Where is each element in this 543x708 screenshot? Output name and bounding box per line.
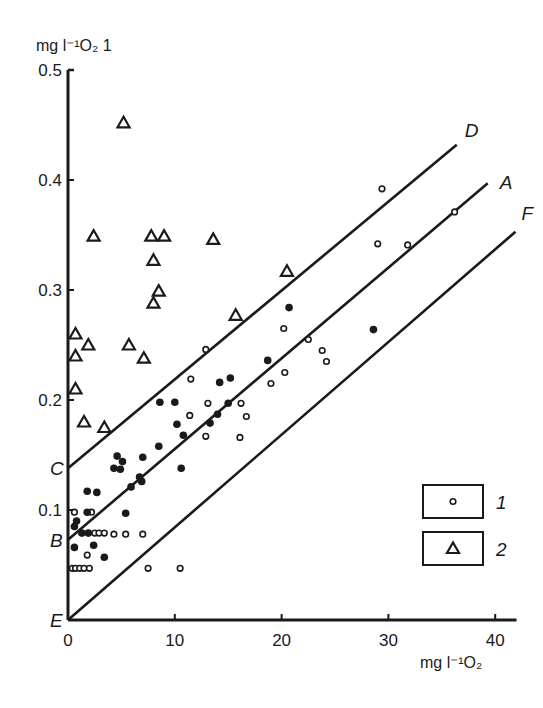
filled-circle-point bbox=[138, 478, 146, 486]
line-label-D: D bbox=[465, 120, 479, 141]
y-tick-label: 0.2 bbox=[38, 391, 62, 410]
filled-circle-point bbox=[264, 357, 272, 365]
open-circle-point bbox=[203, 347, 209, 353]
triangle-point bbox=[69, 328, 81, 339]
open-circle-point bbox=[205, 401, 211, 407]
line-D bbox=[68, 145, 457, 468]
data-points bbox=[69, 117, 457, 571]
open-circle-point bbox=[111, 531, 117, 537]
legend-label-1: 1 bbox=[496, 492, 507, 513]
y-tick-label: 0.3 bbox=[38, 281, 62, 300]
triangle-point bbox=[78, 416, 90, 427]
y-tick-label: 0.5 bbox=[38, 61, 62, 80]
filled-circle-point bbox=[71, 544, 79, 552]
line-label-A: A bbox=[499, 172, 513, 193]
x-tick-label: 40 bbox=[486, 631, 505, 650]
filled-circle-point bbox=[227, 374, 235, 382]
filled-circle-point bbox=[127, 483, 135, 491]
filled-circle-point bbox=[224, 400, 232, 408]
x-tick-label: 0 bbox=[63, 631, 72, 650]
open-circle-point bbox=[237, 435, 243, 441]
y-tick-label: 0.1 bbox=[38, 501, 62, 520]
intercept-label-B: B bbox=[50, 530, 63, 551]
x-tick-label: 30 bbox=[379, 631, 398, 650]
open-circle-point bbox=[319, 348, 325, 354]
y-axis-label: mg l⁻¹O₂ 1 bbox=[36, 37, 112, 54]
open-circle-point bbox=[177, 566, 183, 572]
filled-circle-point bbox=[173, 420, 181, 428]
open-circle-point bbox=[244, 414, 250, 420]
intercept-label-E: E bbox=[50, 610, 63, 631]
filled-circle-point bbox=[83, 508, 91, 516]
triangle-point bbox=[118, 117, 130, 128]
open-circle-point bbox=[188, 376, 194, 382]
filled-circle-point bbox=[285, 304, 293, 312]
triangle-point bbox=[123, 339, 135, 350]
open-circle-point bbox=[452, 209, 458, 215]
open-circle-point bbox=[238, 401, 244, 407]
x-tick-label: 10 bbox=[165, 631, 184, 650]
open-circle-point bbox=[123, 531, 129, 537]
triangle-point bbox=[158, 230, 170, 241]
filled-circle-point bbox=[216, 379, 224, 387]
legend: 12 bbox=[423, 485, 507, 565]
open-circle-point bbox=[450, 499, 456, 505]
triangle-point bbox=[147, 254, 159, 264]
filled-circle-point bbox=[84, 529, 92, 537]
filled-circle-point bbox=[155, 442, 163, 450]
triangle-point bbox=[153, 285, 165, 296]
filled-circle-point bbox=[119, 458, 127, 466]
triangle-point bbox=[138, 352, 150, 363]
triangle-point bbox=[230, 309, 242, 320]
open-circle-point bbox=[84, 552, 90, 558]
open-circle-point bbox=[203, 434, 209, 440]
filled-circle-point bbox=[113, 452, 121, 460]
filled-circle-point bbox=[117, 466, 125, 474]
filled-circle-point bbox=[370, 326, 378, 334]
open-circle-point bbox=[268, 381, 274, 387]
open-circle-point bbox=[282, 370, 288, 376]
filled-circle-point bbox=[139, 453, 147, 461]
triangle-point bbox=[69, 383, 81, 394]
triangle-point bbox=[281, 265, 293, 276]
open-circle-point bbox=[87, 566, 93, 572]
legend-label-2: 2 bbox=[495, 539, 507, 560]
filled-circle-point bbox=[180, 431, 188, 439]
triangle-point bbox=[82, 339, 94, 350]
triangle-point bbox=[207, 233, 219, 244]
filled-circle-point bbox=[83, 488, 91, 496]
open-circle-point bbox=[140, 531, 146, 537]
open-circle-point bbox=[324, 359, 330, 365]
open-circle-point bbox=[187, 413, 193, 419]
filled-circle-point bbox=[110, 464, 118, 472]
open-circle-point bbox=[405, 242, 411, 248]
axes: 0102030400.10.20.30.40.5mg l⁻¹O₂ 1mg l⁻¹… bbox=[36, 37, 517, 671]
x-tick-label: 20 bbox=[272, 631, 291, 650]
open-circle-point bbox=[102, 530, 108, 536]
open-circle-point bbox=[306, 337, 312, 343]
filled-circle-point bbox=[171, 398, 179, 406]
filled-circle-point bbox=[156, 398, 164, 406]
triangle-point bbox=[69, 350, 81, 361]
filled-circle-point bbox=[90, 541, 98, 549]
open-circle-point bbox=[375, 241, 381, 247]
open-circle-point bbox=[379, 186, 385, 192]
intercept-label-C: C bbox=[50, 458, 64, 479]
x-axis-label: mg l⁻¹O₂ bbox=[420, 654, 482, 671]
triangle-point bbox=[98, 422, 110, 433]
triangle-point bbox=[147, 297, 159, 308]
triangle-point bbox=[88, 230, 100, 241]
filled-circle-point bbox=[93, 489, 101, 497]
filled-circle-point bbox=[71, 523, 79, 531]
filled-circle-point bbox=[101, 554, 109, 562]
filled-circle-point bbox=[206, 419, 214, 427]
triangle-point bbox=[145, 230, 157, 241]
open-circle-point bbox=[281, 326, 287, 332]
open-circle-point bbox=[72, 509, 78, 515]
line-label-F: F bbox=[521, 203, 534, 224]
open-circle-point bbox=[145, 566, 151, 572]
scatter-chart: 0102030400.10.20.30.40.5mg l⁻¹O₂ 1mg l⁻¹… bbox=[0, 0, 543, 708]
y-tick-label: 0.4 bbox=[38, 171, 62, 190]
filled-circle-point bbox=[177, 464, 185, 472]
filled-circle-point bbox=[214, 411, 222, 419]
